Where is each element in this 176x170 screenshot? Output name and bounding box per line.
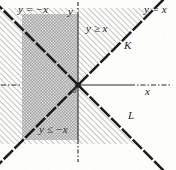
label-line-y-equals-x: y = x	[144, 4, 167, 15]
label-region-y-greater-equal-x: y ≥ x	[86, 23, 107, 34]
label-region-y-less-equal-negative-x: y ≤ −x	[39, 124, 68, 135]
label-x-axis: x	[145, 86, 150, 97]
math-figure-solution-region: y = −x y = x y ≥ x y ≤ −x K L x y 0	[0, 0, 176, 170]
label-line-K: K	[124, 40, 131, 51]
label-line-L: L	[128, 110, 134, 121]
label-y-axis: y	[68, 6, 73, 17]
label-line-y-equals-negative-x: y = −x	[18, 4, 48, 15]
label-origin: 0	[72, 86, 77, 95]
